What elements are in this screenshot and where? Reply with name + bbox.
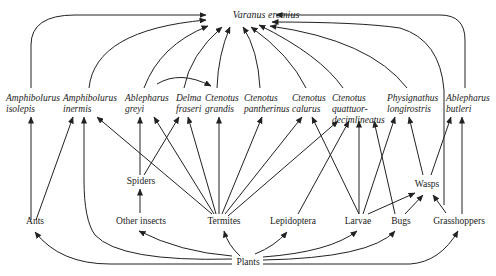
edge-termites-ctencal bbox=[225, 117, 302, 214]
node-bugs: Bugs bbox=[391, 216, 411, 227]
label-line2: longirostris bbox=[387, 104, 438, 115]
label-line1: Delma bbox=[176, 93, 201, 104]
label-line2: grandis bbox=[205, 104, 239, 115]
edge-ctengrandis-varanus bbox=[217, 27, 230, 88]
label-line2: quattuor- bbox=[332, 104, 385, 115]
node-grasshoppers: Grasshoppers bbox=[433, 216, 485, 227]
edge-lepidoptera-ctenquat bbox=[298, 121, 349, 214]
label-line2: isolepis bbox=[6, 104, 60, 115]
node-ctenotus-pantherinus: Ctenotus pantherinus bbox=[244, 93, 289, 115]
node-ctenotus-calurus: Ctenotus calurus bbox=[292, 93, 326, 115]
edge-termites-ctenquat bbox=[228, 121, 338, 216]
edge-physig-varanus bbox=[270, 26, 407, 88]
edge-wasps-ablebutleri bbox=[431, 117, 451, 175]
node-amphibolurus-isolepis: Amphibolurus isolepis bbox=[6, 93, 60, 115]
edge-ctenpanth-varanus bbox=[243, 27, 260, 88]
edge-ablegreyi-ctengrandis bbox=[157, 77, 211, 86]
node-varanus-eremius: Varanus eremius bbox=[233, 9, 300, 20]
label-line2: butleri bbox=[446, 104, 490, 115]
node-wasps: Wasps bbox=[415, 179, 440, 190]
node-delma-fraseri: Delma fraseri bbox=[176, 93, 201, 115]
label-line2: inermis bbox=[63, 104, 117, 115]
node-other-insects: Other insects bbox=[116, 216, 166, 227]
edge-termites-ctenpanth bbox=[222, 117, 262, 214]
node-ablepharus-greyi: Ablepharus greyi bbox=[125, 93, 169, 115]
label-line1: Amphibolurus bbox=[63, 93, 117, 104]
label-line1: Ctenotus bbox=[205, 93, 239, 104]
node-amphibolurus-inermis: Amphibolurus inermis bbox=[63, 93, 117, 115]
label-line1: Ablepharus bbox=[446, 93, 490, 104]
label-line2: pantherinus bbox=[244, 104, 289, 115]
edge-larvae-ctencal bbox=[312, 117, 359, 214]
node-ants: Ants bbox=[26, 216, 44, 227]
label-line1: Ctenotus bbox=[244, 93, 289, 104]
edge-wasps-physig bbox=[409, 117, 423, 175]
edge-bugs-wasps bbox=[405, 195, 423, 214]
label-line2: fraseri bbox=[176, 104, 201, 115]
node-larvae: Larvae bbox=[345, 216, 371, 227]
food-web-diagram: Varanus eremius Amphibolurus isolepis Am… bbox=[0, 0, 496, 276]
label-line1: Amphibolurus bbox=[6, 93, 60, 104]
node-lepidoptera: Lepidoptera bbox=[270, 216, 316, 227]
node-plants: Plants bbox=[236, 257, 259, 268]
edge-bugs-ctenquat bbox=[374, 121, 395, 214]
label-line1: Ablepharus bbox=[125, 93, 169, 104]
node-ctenotus-grandis: Ctenotus grandis bbox=[205, 93, 239, 115]
node-ablepharus-butleri: Ablepharus butleri bbox=[446, 93, 490, 115]
edge-plants-amphinermis bbox=[84, 117, 232, 259]
edge-ants-amphinermis bbox=[36, 117, 73, 220]
edge-termites-ablegreyi bbox=[154, 117, 214, 214]
edge-plants-lepidoptera bbox=[255, 232, 287, 254]
node-ctenotus-quattuordecimlineatus: Ctenotus quattuor- decimlineatus bbox=[332, 93, 385, 126]
edge-plants-otherinsects bbox=[139, 231, 232, 256]
label-line1: Ctenotus bbox=[292, 93, 326, 104]
edge-ablegreyi-varanus bbox=[144, 26, 208, 88]
node-physignathus-longirostris: Physignathus longirostris bbox=[387, 93, 438, 115]
node-spiders: Spiders bbox=[127, 176, 156, 187]
edge-termites-delma bbox=[188, 117, 216, 214]
edge-termites-amphinermis bbox=[97, 117, 212, 214]
food-web-edges bbox=[0, 0, 496, 276]
label-line1: Ctenotus bbox=[332, 93, 385, 104]
label-line3: decimlineatus bbox=[332, 115, 385, 126]
label-line1: Physignathus bbox=[387, 93, 438, 104]
label-line2: greyi bbox=[125, 104, 169, 115]
node-termites: Termites bbox=[207, 216, 240, 227]
edge-larvae-physig bbox=[363, 117, 395, 214]
edge-spiders-delma bbox=[144, 117, 179, 175]
label-line2: calurus bbox=[292, 104, 326, 115]
edge-plants-termites bbox=[224, 231, 240, 256]
